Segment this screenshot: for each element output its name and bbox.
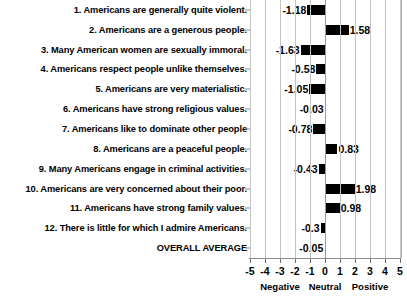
zone-label-positive: Positive <box>335 281 405 292</box>
chart-row: 11. Americans have strong family values.… <box>0 198 407 218</box>
axis-tick-5 <box>400 259 401 263</box>
bar <box>316 64 325 74</box>
chart-row: 7. Americans like to dominate other peop… <box>0 119 407 139</box>
bar <box>309 84 325 94</box>
gridline-2 <box>355 0 356 258</box>
axis-tick-4 <box>385 259 386 263</box>
category-label: OVERALL AVERAGE <box>157 243 247 253</box>
axis-tick-1 <box>340 259 341 263</box>
gridline--2 <box>295 0 296 258</box>
axis-tick-3 <box>370 259 371 263</box>
bar <box>325 25 349 35</box>
category-label: 7. Americans like to dominate other peop… <box>62 124 247 134</box>
chart-row: 12. There is little for which I admire A… <box>0 218 407 238</box>
gridline-0 <box>325 0 326 258</box>
chart-row: 1. Americans are generally quite violent… <box>0 0 407 20</box>
gridline--5 <box>250 0 251 258</box>
bar <box>325 144 337 154</box>
axis-tick--4 <box>265 259 266 263</box>
axis-tick--3 <box>280 259 281 263</box>
axis-tick-0 <box>325 259 326 263</box>
chart-row: 6. Americans have strong religious value… <box>0 99 407 119</box>
axis-tick--1 <box>310 259 311 263</box>
gridline--1 <box>310 0 311 258</box>
value-label: 1.98 <box>356 183 376 195</box>
category-label: 2. Americans are a generous people. <box>89 25 247 35</box>
value-label: -0.78 <box>288 123 312 135</box>
category-label: 6. Americans have strong religious value… <box>63 104 247 114</box>
category-label: 11. Americans have strong family values. <box>70 203 247 213</box>
bar <box>313 124 325 134</box>
axis-tick--5 <box>250 259 251 263</box>
value-label: -0.03 <box>300 103 324 115</box>
chart-row: 2. Americans are a generous people.1.58 <box>0 20 407 40</box>
category-label: 4. Americans respect people unlike thems… <box>41 64 247 74</box>
axis-tick-2 <box>355 259 356 263</box>
chart-row: 10. Americans are very concerned about t… <box>0 179 407 199</box>
gridline--4 <box>265 0 266 258</box>
category-label: 3. Many American women are sexually immo… <box>41 45 247 55</box>
value-label: -0.43 <box>294 163 318 175</box>
chart-container: 1. Americans are generally quite violent… <box>0 0 407 307</box>
category-label: 10. Americans are very concerned about t… <box>26 184 247 194</box>
gridline-5 <box>400 0 401 258</box>
category-label: 5. Americans are very materialistic. <box>95 84 247 94</box>
chart-row: 4. Americans respect people unlike thems… <box>0 60 407 80</box>
gridline-3 <box>370 0 371 258</box>
value-label: 0.98 <box>341 202 361 214</box>
value-label: -0.05 <box>299 242 323 254</box>
bar <box>301 45 325 55</box>
axis-tick--2 <box>295 259 296 263</box>
gridline--3 <box>280 0 281 258</box>
value-label: -1.05 <box>284 83 308 95</box>
gridline-1 <box>340 0 341 258</box>
category-label: 8. Americans are a peaceful people. <box>93 144 247 154</box>
gridline-4 <box>385 0 386 258</box>
chart-row: 9. Many Americans engage in criminal act… <box>0 159 407 179</box>
category-label: 1. Americans are generally quite violent… <box>74 5 247 15</box>
bar <box>325 203 340 213</box>
chart-row: OVERALL AVERAGE-0.05 <box>0 238 407 258</box>
axis-tick-label: 5 <box>390 265 407 277</box>
value-label: 1.58 <box>350 24 370 36</box>
chart-rows: 1. Americans are generally quite violent… <box>0 0 407 258</box>
category-label: 12. There is little for which I admire A… <box>45 223 247 233</box>
chart-row: 8. Americans are a peaceful people.0.83 <box>0 139 407 159</box>
chart-row: 3. Many American women are sexually immo… <box>0 40 407 60</box>
chart-row: 5. Americans are very materialistic.-1.0… <box>0 79 407 99</box>
category-label: 9. Many Americans engage in criminal act… <box>39 164 247 174</box>
